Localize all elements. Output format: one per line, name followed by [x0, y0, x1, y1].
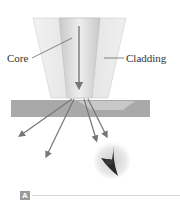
cladding-label: Cladding — [126, 53, 166, 64]
divider — [32, 195, 180, 196]
core-label: Core — [7, 53, 28, 64]
panel-label: A — [20, 191, 30, 200]
fiber-diagram — [0, 0, 180, 206]
